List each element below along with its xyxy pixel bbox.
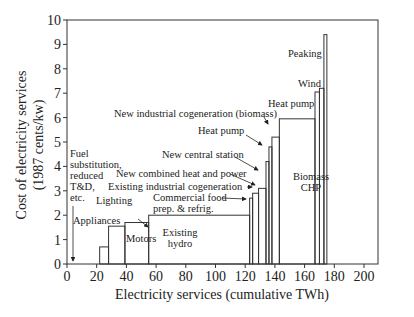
annotation-label: Appliances	[73, 215, 120, 226]
annotation-label: New combined heat and power	[116, 168, 247, 179]
annotation-label: etc.	[70, 192, 85, 203]
annotation-label: CHP	[301, 182, 322, 193]
annotation-label: New central station	[162, 149, 244, 160]
leader-arrow	[246, 135, 262, 145]
y-tick-label: 10	[47, 13, 61, 28]
annotation-label: Lighting	[96, 195, 133, 206]
annotations: Fuelsubstitution,reducedT&D,etc.Applianc…	[70, 48, 329, 249]
bar	[272, 137, 279, 264]
x-tick-label: 0	[64, 269, 71, 284]
x-tick-label: 40	[119, 269, 133, 284]
y-axis-label-line2: (1987 cents/kw)	[31, 99, 47, 190]
bar	[324, 35, 327, 264]
y-tick-label: 0	[54, 257, 61, 272]
bar	[259, 188, 266, 264]
x-tick-label: 60	[149, 269, 163, 284]
x-tick-label: 200	[354, 269, 375, 284]
annotation-label: Motors	[126, 233, 156, 244]
x-tick-label: 160	[294, 269, 315, 284]
y-tick-label: 6	[54, 111, 61, 126]
y-tick-label: 8	[54, 62, 61, 77]
annotation-label: reduced	[70, 170, 104, 181]
x-tick-label: 20	[90, 269, 104, 284]
x-tick-label: 140	[264, 269, 285, 284]
y-tick-label: 9	[54, 37, 61, 52]
y-tick-label: 4	[54, 159, 61, 174]
y-axis-label-line1: Cost of electricity services	[14, 71, 29, 220]
y-tick-label: 7	[54, 86, 61, 101]
annotation-label: Wind	[298, 78, 322, 89]
annotation-label: Biomass	[293, 171, 329, 182]
y-tick-label: 1	[54, 233, 61, 248]
annotation-label: Peaking	[288, 48, 323, 59]
x-tick-label: 100	[205, 269, 226, 284]
y-axis-ticks: 012345678910	[47, 13, 67, 272]
annotation-label: Existing industrial cogeneration	[108, 181, 243, 192]
x-tick-label: 180	[324, 269, 345, 284]
annotation-label: New industrial cogeneration (biomass)	[114, 108, 277, 120]
annotation-label: hydro	[168, 238, 193, 249]
bar	[109, 226, 125, 264]
annotation-label: prep. & refrig.	[153, 203, 214, 214]
annotation-label: Existing	[162, 227, 198, 238]
annotation-label: Fuel	[70, 148, 89, 159]
x-tick-label: 120	[235, 269, 256, 284]
bar	[100, 247, 109, 264]
x-axis-ticks: 020406080100120140160180200	[64, 264, 375, 284]
y-tick-label: 2	[54, 208, 61, 223]
y-tick-label: 3	[54, 184, 61, 199]
plot-frame	[67, 20, 378, 264]
x-axis-label: Electricity services (cumulative TWh)	[115, 287, 329, 303]
y-tick-label: 5	[54, 135, 61, 150]
annotation-label: T&D,	[70, 181, 95, 192]
x-tick-label: 80	[179, 269, 193, 284]
annotation-label: substitution,	[70, 159, 122, 170]
bar	[253, 193, 259, 264]
annotation-label: Heat pump	[268, 98, 314, 109]
annotation-label: Commercial food	[153, 192, 228, 203]
bar	[149, 215, 250, 264]
supply-curve-chart: 020406080100120140160180200 012345678910…	[0, 0, 414, 317]
annotation-label: Heat pump	[198, 125, 244, 136]
